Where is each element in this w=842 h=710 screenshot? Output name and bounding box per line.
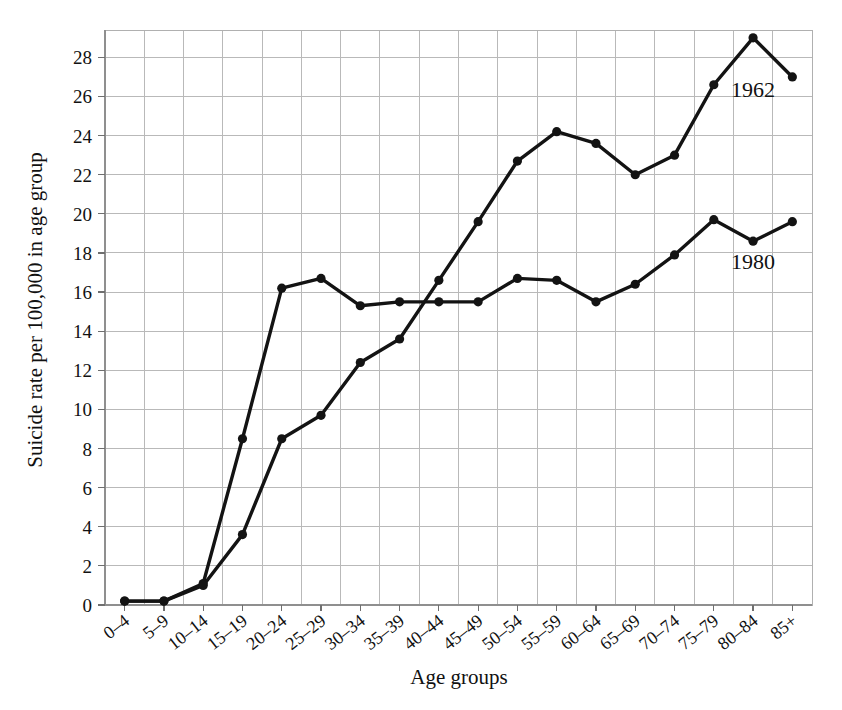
y-tick-label: 6	[83, 478, 93, 499]
y-tick-label: 16	[73, 282, 92, 303]
series-annotation-1980: 1980	[731, 249, 775, 274]
data-point-marker	[513, 156, 522, 165]
data-point-marker	[434, 297, 443, 306]
data-point-marker	[395, 334, 404, 343]
chart-container: 0246810121416182022242628 0–45–910–1415–…	[0, 0, 842, 710]
y-tick-label: 22	[73, 165, 92, 186]
data-point-marker	[748, 237, 757, 246]
data-point-marker	[631, 170, 640, 179]
y-axis-title: Suicide rate per 100,000 in age group	[23, 152, 47, 468]
y-tick-label: 24	[73, 126, 93, 147]
data-point-marker	[434, 276, 443, 285]
data-point-marker	[513, 274, 522, 283]
y-tick-label: 18	[73, 243, 92, 264]
y-tick-label: 10	[73, 399, 92, 420]
data-point-marker	[159, 596, 168, 605]
data-point-marker	[316, 274, 325, 283]
line-chart: 0246810121416182022242628 0–45–910–1415–…	[0, 0, 842, 710]
series-annotation-1962: 1962	[731, 77, 775, 102]
data-point-marker	[709, 215, 718, 224]
data-point-marker	[552, 276, 561, 285]
y-tick-label: 26	[73, 86, 92, 107]
data-point-marker	[277, 434, 286, 443]
data-point-marker	[552, 127, 561, 136]
data-point-marker	[591, 297, 600, 306]
data-point-marker	[316, 411, 325, 420]
y-tick-label: 8	[83, 439, 93, 460]
data-point-marker	[670, 151, 679, 160]
data-point-marker	[788, 217, 797, 226]
data-point-marker	[591, 139, 600, 148]
y-tick-label: 28	[73, 47, 92, 68]
data-point-marker	[238, 434, 247, 443]
data-point-marker	[356, 301, 365, 310]
data-point-marker	[199, 581, 208, 590]
y-tick-label: 12	[73, 360, 92, 381]
y-tick-label: 20	[73, 204, 92, 225]
data-point-marker	[474, 297, 483, 306]
data-point-marker	[120, 596, 129, 605]
x-axis-title: Age groups	[410, 665, 507, 689]
data-point-marker	[670, 250, 679, 259]
data-point-marker	[277, 284, 286, 293]
data-point-marker	[395, 297, 404, 306]
data-point-marker	[748, 33, 757, 42]
data-point-marker	[788, 72, 797, 81]
y-tick-label: 0	[83, 595, 93, 616]
data-point-marker	[631, 280, 640, 289]
data-point-marker	[474, 217, 483, 226]
y-tick-label: 2	[83, 556, 93, 577]
data-point-marker	[709, 80, 718, 89]
data-point-marker	[356, 358, 365, 367]
y-tick-label: 14	[73, 321, 93, 342]
data-point-marker	[238, 530, 247, 539]
y-tick-label: 4	[83, 517, 93, 538]
